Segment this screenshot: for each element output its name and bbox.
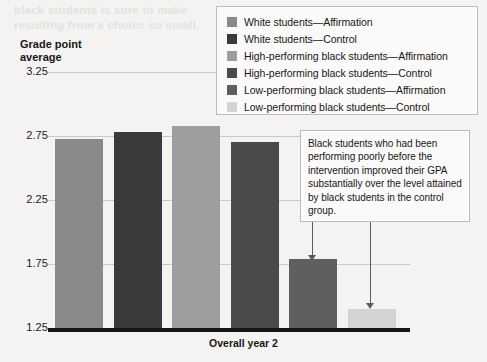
legend-item-label: High-performing black students—Affirmati…: [244, 50, 448, 62]
annotation-arrow-line-2: [370, 222, 371, 305]
chart-legend: White students—AffirmationWhite students…: [216, 6, 478, 115]
legend-item-label: High-performing black students—Control: [244, 67, 432, 79]
legend-swatch-white-control: [227, 34, 237, 44]
annotation-text: Black students who had been performing p…: [308, 137, 462, 217]
legend-swatch-low-control: [227, 102, 237, 112]
x-axis-label: Overall year 2: [0, 337, 487, 349]
bar-4: [231, 142, 279, 328]
legend-item-5[interactable]: Low-performing black students—Affirmatio…: [227, 81, 469, 98]
legend-item-label: White students—Affirmation: [244, 16, 373, 28]
legend-swatch-high-control: [227, 68, 237, 78]
legend-swatch-low-affirmation: [227, 85, 237, 95]
legend-item-label: Low-performing black students—Affirmatio…: [244, 84, 445, 96]
bar-2: [114, 132, 162, 328]
annotation-arrow-head-2: [366, 303, 374, 309]
legend-item-2[interactable]: White students—Control: [227, 30, 469, 47]
axis-baseline: [48, 328, 410, 332]
legend-item-3[interactable]: High-performing black students—Affirmati…: [227, 47, 469, 64]
legend-item-label: White students—Control: [244, 33, 357, 45]
bar-1: [55, 139, 103, 328]
bar-5: [289, 259, 337, 328]
annotation-callout: Black students who had been performing p…: [300, 130, 470, 222]
annotation-arrow-line-1: [312, 222, 313, 257]
legend-item-4[interactable]: High-performing black students—Control: [227, 64, 469, 81]
bar-6: [348, 309, 396, 328]
legend-item-6[interactable]: Low-performing black students—Control: [227, 98, 469, 115]
legend-item-1[interactable]: White students—Affirmation: [227, 13, 469, 30]
bar-3: [172, 126, 220, 328]
legend-item-label: Low-performing black students—Control: [244, 101, 429, 113]
annotation-arrow-head-1: [308, 255, 316, 261]
legend-swatch-high-affirmation: [227, 51, 237, 61]
chart-figure: black students is sure to make resulting…: [0, 0, 487, 362]
legend-swatch-white-affirmation: [227, 17, 237, 27]
